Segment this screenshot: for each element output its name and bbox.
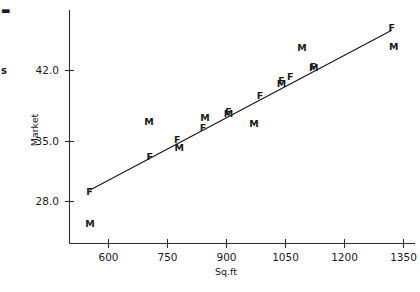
clipped-fragment-middle: s (1, 65, 7, 76)
data-point-f: F (388, 22, 395, 33)
plot-canvas: ▬ s 42.0 35.0 28.0 600 750 900 1050 1200… (0, 0, 420, 292)
clipped-fragment-top: ▬ (1, 5, 10, 16)
data-point-f: F (287, 71, 294, 82)
data-point-m: M (200, 112, 209, 123)
data-markers-layer: FFFFFFFFFFMMMMMMMMMM (85, 22, 398, 230)
x-tick-label-900: 900 (216, 251, 236, 263)
x-tick-label-1200: 1200 (331, 251, 358, 263)
x-tick-label-1350: 1350 (390, 251, 417, 263)
x-tick-label-750: 750 (157, 251, 177, 263)
x-tick-label-600: 600 (98, 251, 118, 263)
scatter-plot-figure: ▬ s 42.0 35.0 28.0 600 750 900 1050 1200… (0, 0, 420, 292)
y-tick-label-42: 42.0 (36, 64, 59, 76)
data-point-f: F (147, 151, 154, 162)
y-tick-label-28: 28.0 (36, 195, 59, 207)
data-point-m: M (85, 218, 94, 229)
x-tick-label-1050: 1050 (272, 251, 299, 263)
data-point-m: M (389, 41, 398, 52)
data-point-m: M (175, 142, 184, 153)
data-point-m: M (224, 108, 233, 119)
data-point-f: F (86, 186, 93, 197)
y-axis-title: Market (29, 113, 40, 146)
data-point-m: M (297, 42, 306, 53)
data-point-m: M (277, 78, 286, 89)
data-point-m: M (249, 118, 258, 129)
data-point-f: F (200, 122, 207, 133)
data-point-m: M (309, 62, 318, 73)
data-point-f: F (257, 90, 264, 101)
data-point-m: M (144, 116, 153, 127)
regression-line (90, 30, 392, 190)
x-axis-title: Sq.ft (215, 266, 237, 277)
